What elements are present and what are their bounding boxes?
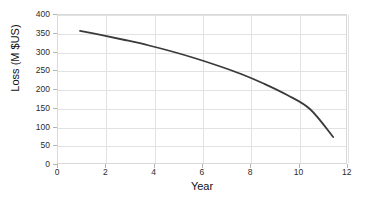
gridline-vertical: [251, 15, 252, 163]
gridline-vertical: [203, 15, 204, 163]
xtick-label: 8: [238, 167, 262, 177]
ytick-mark: [53, 108, 57, 109]
ytick-mark: [53, 89, 57, 90]
y-axis-title-wrap: Loss (M $US): [0, 0, 26, 212]
ytick-mark: [53, 127, 57, 128]
plot-area: [57, 14, 347, 164]
chart-container: 400 350 300 250 200 150 100 50 0 0 2 4 6…: [0, 0, 368, 212]
y-axis-title: Loss (M $US): [9, 0, 21, 123]
xtick-label: 2: [93, 167, 117, 177]
ytick-mark: [53, 33, 57, 34]
gridline-vertical: [348, 15, 349, 163]
xtick-label: 0: [45, 167, 69, 177]
ytick-mark: [53, 52, 57, 53]
gridline-vertical: [155, 15, 156, 163]
xtick-label: 10: [287, 167, 311, 177]
gridline-vertical: [106, 15, 107, 163]
ytick-mark: [53, 145, 57, 146]
xtick-label: 12: [335, 167, 359, 177]
ytick-mark: [53, 70, 57, 71]
gridline-vertical: [300, 15, 301, 163]
x-axis-title: Year: [57, 180, 347, 192]
xtick-label: 6: [190, 167, 214, 177]
ytick-mark: [53, 14, 57, 15]
xtick-label: 4: [142, 167, 166, 177]
